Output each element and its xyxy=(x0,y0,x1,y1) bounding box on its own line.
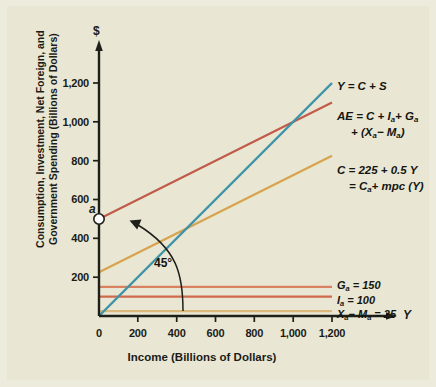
xa-mid: − M xyxy=(349,308,368,320)
x-axis-title: Income (Billions of Dollars) xyxy=(7,351,397,365)
ae-sub2: a xyxy=(414,115,418,124)
x-tick-label-1200: 1,200 xyxy=(311,327,353,340)
c2-post: + mpc (Y) xyxy=(372,180,424,192)
y-axis-title-line2: Government Spending (Billions of Dollars… xyxy=(47,19,60,259)
ae-pre: AE = C + I xyxy=(337,110,391,122)
point-a-label: a xyxy=(89,202,96,216)
hline-label-ia: Ia = 100 xyxy=(337,294,375,307)
y-axis-currency-symbol: $ xyxy=(93,24,100,38)
curve-label-c-line1: C = 225 + 0.5 Y xyxy=(337,163,424,179)
ga-post: = 150 xyxy=(350,279,381,291)
x-tick-label-200: 200 xyxy=(118,327,158,340)
curve-label-ae: AE = C + Ia+ Ga + (Xa− Ma) xyxy=(337,109,418,140)
ae-mid: + G xyxy=(395,110,414,122)
ia-post: = 100 xyxy=(344,294,375,306)
ga-pre: G xyxy=(337,279,346,291)
y-axis-title: Consumption, Investment, Net Foreign, an… xyxy=(34,19,60,259)
hline-label-xa-ma: Xa− Ma = 25 xyxy=(337,308,396,321)
ae2-mid: − M xyxy=(377,126,397,138)
x-axis-variable-label: Y xyxy=(403,308,411,322)
curve-label-consumption: C = 225 + 0.5 Y = Ca+ mpc (Y) xyxy=(337,163,424,194)
c2-pre: = C xyxy=(349,180,367,192)
economics-figure: $ Y a 45° 200 400 600 800 1,000 1,200 0 … xyxy=(0,0,436,387)
curve-label-c-line2: = Ca+ mpc (Y) xyxy=(337,179,424,195)
curve-label-y-cs: Y = C + S xyxy=(337,79,387,95)
y-tick-label-200: 200 xyxy=(41,271,89,284)
curve-label-ae-line1: AE = C + Ia+ Ga xyxy=(337,109,418,125)
x-tick-label-0: 0 xyxy=(79,327,119,340)
ae2-post: ) xyxy=(401,126,405,138)
x-tick-label-800: 800 xyxy=(234,327,274,340)
angle-label: 45° xyxy=(154,256,172,270)
y-axis-title-line1: Consumption, Investment, Net Foreign, an… xyxy=(34,19,47,259)
x-tick-label-1000: 1,000 xyxy=(272,327,314,340)
figure-plate: $ Y a 45° 200 400 600 800 1,000 1,200 0 … xyxy=(7,6,429,380)
ae2-pre: + (X xyxy=(351,126,372,138)
curve-label-ae-line2: + (Xa− Ma) xyxy=(337,125,418,141)
x-tick-label-400: 400 xyxy=(157,327,197,340)
hline-label-ga: Ga = 150 xyxy=(337,279,381,292)
x-tick-label-600: 600 xyxy=(196,327,236,340)
xa-post: = 25 xyxy=(371,308,396,320)
